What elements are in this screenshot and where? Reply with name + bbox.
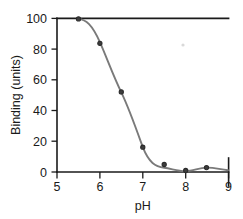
data-point-ph-8-0: [184, 168, 188, 172]
data-point-ph-6-0: [98, 41, 102, 45]
data-point-ph-8-5: [204, 166, 208, 170]
x-tick-label-7: 7: [139, 180, 146, 194]
y-tick-label-0: 0: [40, 166, 47, 180]
x-axis-title: pH: [135, 199, 151, 213]
data-point-ph-7-0: [141, 145, 145, 149]
plot-axes: [57, 18, 229, 186]
data-point-markers: [76, 17, 208, 173]
y-axis-title: Binding (units): [9, 55, 23, 135]
x-tick-label-5: 5: [54, 180, 61, 194]
x-tick-label-6: 6: [96, 180, 103, 194]
data-point-ph-6-5: [119, 90, 123, 94]
chart-figure: 100 80 60 40 20 0 5 6 7 8 9 pH Binding (…: [0, 0, 243, 219]
x-tick-label-8: 8: [182, 180, 189, 194]
scan-artifact-speck: [181, 43, 184, 46]
y-tick-label-100: 100: [26, 12, 47, 26]
y-tick-label-20: 20: [33, 135, 47, 149]
x-tick-label-9: 9: [225, 180, 232, 194]
y-tick-label-40: 40: [33, 104, 47, 118]
data-point-ph-5-5: [76, 17, 80, 21]
x-axis-ticks: [57, 172, 229, 179]
data-point-ph-7-45: [162, 162, 166, 166]
x-axis-tick-labels: 5 6 7 8 9: [54, 180, 233, 194]
binding-ph-chart: 100 80 60 40 20 0 5 6 7 8 9 pH Binding (…: [0, 0, 243, 219]
y-axis-tick-labels: 100 80 60 40 20 0: [26, 12, 47, 180]
y-tick-label-60: 60: [33, 73, 47, 87]
y-axis-ticks: [52, 18, 58, 172]
y-tick-label-80: 80: [33, 43, 47, 57]
